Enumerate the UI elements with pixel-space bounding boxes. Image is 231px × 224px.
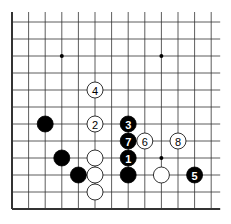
- black-stone: 3: [120, 116, 136, 132]
- black-stone-circle: [54, 150, 70, 166]
- black-stone-circle: [37, 116, 53, 132]
- white-stone: 4: [87, 82, 103, 98]
- move-number: 6: [142, 136, 148, 148]
- black-stone: [120, 167, 136, 183]
- white-stone-circle: [87, 167, 103, 183]
- white-stone-circle: [87, 184, 103, 200]
- white-stone-circle: [153, 167, 169, 183]
- move-number: 8: [175, 136, 181, 148]
- white-stone: 6: [137, 133, 153, 149]
- black-stone: [37, 116, 53, 132]
- move-number: 4: [92, 85, 98, 97]
- star-point: [159, 54, 163, 58]
- black-stone-circle: [120, 167, 136, 183]
- move-number: 1: [125, 153, 131, 165]
- go-board: 42376815: [0, 0, 231, 224]
- white-stone: [87, 150, 103, 166]
- move-number: 5: [192, 170, 198, 182]
- white-stone: [87, 184, 103, 200]
- black-stone-circle: [70, 167, 86, 183]
- star-point: [159, 156, 163, 160]
- black-stone: 5: [187, 167, 203, 183]
- star-point: [60, 54, 64, 58]
- black-stone: [70, 167, 86, 183]
- white-stone-circle: [87, 150, 103, 166]
- white-stone: 2: [87, 116, 103, 132]
- black-stone: 1: [120, 150, 136, 166]
- move-number: 3: [125, 119, 131, 131]
- black-stone: [54, 150, 70, 166]
- white-stone: 8: [170, 133, 186, 149]
- move-number: 2: [92, 119, 98, 131]
- white-stone: [153, 167, 169, 183]
- black-stone: 7: [120, 133, 136, 149]
- move-number: 7: [125, 136, 131, 148]
- white-stone: [87, 167, 103, 183]
